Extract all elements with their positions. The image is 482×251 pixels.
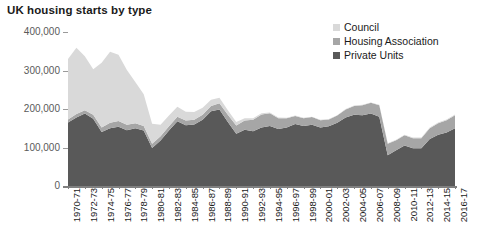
x-axis-tick-label: 1996-97 <box>291 188 301 222</box>
x-axis-tick-label: 2000-01 <box>324 188 334 222</box>
x-axis-tick-label: 2004-05 <box>358 188 368 222</box>
x-axis-labels: 1970-711972-731974-751976-771978-791980-… <box>0 188 482 248</box>
x-axis-tick-label: 2012-13 <box>425 188 435 222</box>
x-axis-tick-label: 1980-81 <box>156 188 166 222</box>
x-axis-tick-label: 1982-83 <box>173 188 183 222</box>
chart-title: UK housing starts by type <box>7 4 152 16</box>
chart-container: UK housing starts by type CouncilHousing… <box>0 0 482 251</box>
plot-area <box>68 32 455 186</box>
legend-swatch-icon <box>333 24 340 31</box>
x-axis-tick-label: 1986-87 <box>207 188 217 222</box>
x-axis-tick-label: 2008-09 <box>392 188 402 222</box>
x-axis-tick-label: 1978-79 <box>139 188 149 222</box>
x-axis-tick-label: 1990-91 <box>240 188 250 222</box>
x-axis-tick-label: 1984-85 <box>190 188 200 222</box>
x-axis-tick-label: 2016-17 <box>459 188 469 222</box>
legend-label: Council <box>344 22 379 33</box>
x-axis-tick-label: 1994-95 <box>274 188 284 222</box>
y-axis-tick-label: 200,000 <box>0 104 60 114</box>
legend-item[interactable]: Council <box>333 22 439 33</box>
x-axis-tick-label: 1970-71 <box>72 188 82 222</box>
x-axis-tick-label: 1998-99 <box>308 188 318 222</box>
x-axis-tick-label: 1988-89 <box>223 188 233 222</box>
y-axis-tick-label: 300,000 <box>0 66 60 76</box>
x-axis-tick-label: 2002-03 <box>341 188 351 222</box>
x-axis-tick-label: 2010-11 <box>409 188 419 221</box>
y-axis-labels: 0100,000200,000300,000400,000 <box>0 26 60 192</box>
x-axis-tick-label: 1974-75 <box>106 188 116 222</box>
x-axis-tick-label: 1992-93 <box>257 188 267 222</box>
x-axis-tick-label: 2006-07 <box>375 188 385 222</box>
y-axis-tick-label: 100,000 <box>0 143 60 153</box>
y-axis-tick-label: 400,000 <box>0 27 60 37</box>
stacked-area-plot <box>68 32 455 186</box>
x-axis-tick-label: 1976-77 <box>123 188 133 222</box>
x-axis-tick-label: 1972-73 <box>89 188 99 222</box>
x-axis-tick-label: 2014-15 <box>442 188 452 222</box>
